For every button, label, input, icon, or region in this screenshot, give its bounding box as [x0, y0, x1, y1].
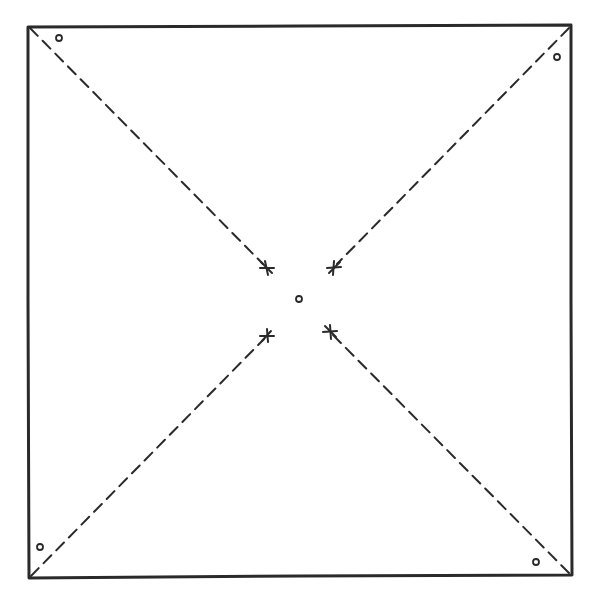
- star-mark-top-left-icon: [260, 261, 274, 275]
- hole-bottom-left-icon: [37, 544, 43, 550]
- pinwheel-template-diagram: [0, 0, 592, 597]
- hole-top-left-icon: [56, 35, 62, 41]
- cut-line-bottom-left: [31, 339, 264, 576]
- cut-line-top-right: [337, 28, 569, 264]
- hole-center-icon: [296, 296, 302, 302]
- hole-top-right-icon: [554, 54, 560, 60]
- star-mark-bottom-left-icon: [260, 329, 274, 342]
- star-mark-top-right-icon: [327, 261, 341, 275]
- hole-bottom-right-icon: [533, 559, 539, 565]
- cut-line-bottom-right: [332, 334, 569, 573]
- cut-line-top-left: [30, 28, 263, 264]
- star-mark-bottom-right-icon: [323, 325, 337, 339]
